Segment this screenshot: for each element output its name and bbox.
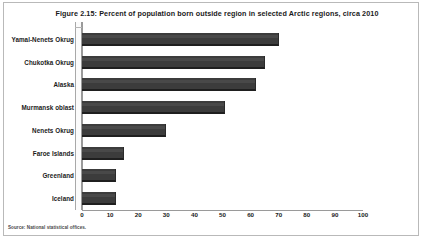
bar [82, 33, 279, 46]
category-label: Faroe Islands [4, 142, 74, 165]
bar [82, 78, 256, 91]
value-tick-label: 0 [80, 211, 83, 218]
category-axis-labels: Yamal-Nenets OkrugChukotka OkrugAlaskaMu… [4, 28, 74, 210]
bar-row [82, 187, 363, 210]
bar [82, 124, 166, 137]
value-tick-label: 70 [275, 211, 282, 218]
value-tick-label: 30 [163, 211, 170, 218]
bar-row [82, 119, 363, 142]
figure-container: Figure 2.15: Percent of population born … [0, 0, 424, 240]
chart-title: Figure 2.15: Percent of population born … [52, 9, 382, 18]
source-note: Source: National statistical offices. [8, 225, 86, 230]
bar [82, 192, 116, 205]
axis-wall [75, 22, 82, 210]
bar [82, 169, 116, 182]
value-tick-label: 80 [303, 211, 310, 218]
value-tick-label: 20 [135, 211, 142, 218]
bar-row [82, 96, 363, 119]
category-label: Iceland [4, 187, 74, 210]
category-label: Greenland [4, 165, 74, 188]
value-tick-label: 100 [358, 211, 368, 218]
plot-area [82, 28, 363, 210]
value-tick-label: 60 [247, 211, 254, 218]
value-axis-ticks: 0102030405060708090100 [82, 211, 363, 223]
value-tick-label: 50 [219, 211, 226, 218]
bar [82, 147, 124, 160]
bar-row [82, 74, 363, 97]
bar-row [82, 51, 363, 74]
value-tick-label: 40 [191, 211, 198, 218]
category-label: Alaska [4, 74, 74, 97]
bar-row [82, 165, 363, 188]
value-tick-label: 90 [331, 211, 338, 218]
bar-series [82, 28, 363, 210]
category-label: Murmansk oblast [4, 96, 74, 119]
bar-row [82, 28, 363, 51]
value-tick-label: 10 [107, 211, 114, 218]
bar-row [82, 142, 363, 165]
category-label: Yamal-Nenets Okrug [4, 28, 74, 51]
category-label: Nenets Okrug [4, 119, 74, 142]
bar [82, 101, 225, 114]
bar [82, 56, 265, 69]
category-label: Chukotka Okrug [4, 51, 74, 74]
